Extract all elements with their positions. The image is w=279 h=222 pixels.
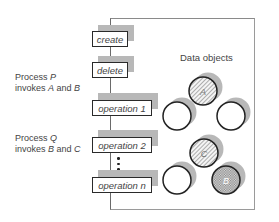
object-c: C xyxy=(190,139,218,167)
svg-text:C: C xyxy=(201,149,208,159)
data-objects: A C B xyxy=(0,0,279,222)
svg-text:B: B xyxy=(223,176,229,186)
object-empty xyxy=(217,102,245,130)
object-empty xyxy=(163,102,191,130)
object-a: A xyxy=(189,77,217,105)
object-b: B xyxy=(212,166,240,194)
svg-text:A: A xyxy=(199,87,206,97)
object-empty xyxy=(163,166,191,194)
